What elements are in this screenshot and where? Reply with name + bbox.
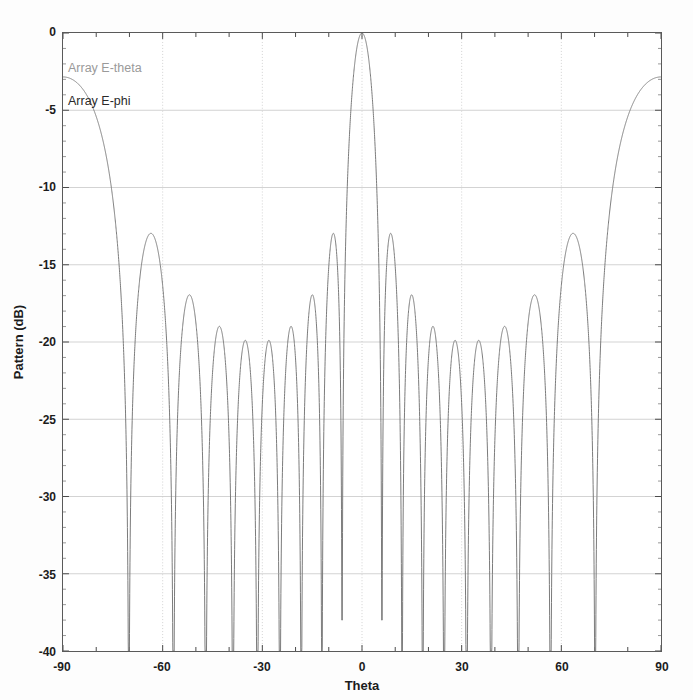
- y-tick-label: -25: [39, 413, 56, 427]
- x-tick-label: 0: [359, 660, 366, 674]
- legend: Array E-theta Array E-phi: [68, 62, 208, 127]
- y-tick-label: -40: [39, 645, 56, 659]
- x-tick-label: 30: [455, 660, 468, 674]
- x-tick-label: -60: [153, 660, 170, 674]
- y-axis-title: Pattern (dB): [11, 305, 26, 379]
- x-tick-label: 90: [655, 660, 668, 674]
- radiation-pattern-figure: 0-5-10-15-20-25-30-35-40 -90-60-30030609…: [0, 0, 693, 700]
- y-tick-label: -10: [39, 180, 56, 194]
- x-tick-label: 60: [555, 660, 568, 674]
- y-tick-label: -15: [39, 258, 56, 272]
- x-tick-label: -90: [53, 660, 70, 674]
- y-tick-label: -35: [39, 568, 56, 582]
- y-tick-label: -5: [45, 103, 56, 117]
- x-tick-label: -30: [253, 660, 270, 674]
- x-axis-title: Theta: [345, 678, 380, 693]
- y-axis-title-wrapper: Pattern (dB): [14, 0, 15, 700]
- y-tick-label: 0: [49, 25, 56, 39]
- legend-item-array-e-phi: Array E-phi: [68, 95, 208, 108]
- legend-item-array-e-theta: Array E-theta: [68, 62, 208, 75]
- y-tick-label: -20: [39, 335, 56, 349]
- y-tick-label: -30: [39, 490, 56, 504]
